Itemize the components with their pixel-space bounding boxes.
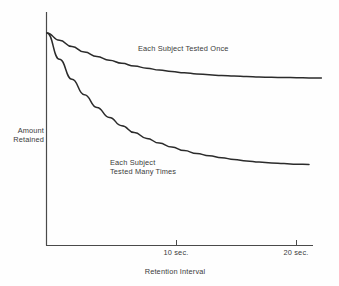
curve-label-many-line1: Each Subject [110, 158, 155, 167]
y-axis-title-line1: Amount [18, 126, 44, 135]
chart-plot-area [0, 0, 339, 286]
curve-label-tested-many-times: Each SubjectTested Many Times [110, 158, 176, 177]
chart-figure: AmountRetained Retention Interval Each S… [0, 0, 339, 286]
x-axis-title: Retention Interval [120, 267, 230, 276]
curve-label-many-line2: Tested Many Times [110, 167, 176, 176]
y-axis-title: AmountRetained [8, 126, 44, 145]
x-tick-label-20sec: 20 sec. [276, 248, 316, 257]
curve-each-subject-tested-once [47, 33, 321, 78]
x-tick-label-10sec: 10 sec. [156, 248, 196, 257]
curve-label-tested-once: Each Subject Tested Once [138, 44, 229, 53]
x-axis-ticks [177, 240, 297, 246]
y-axis-title-line2: Retained [13, 135, 44, 144]
